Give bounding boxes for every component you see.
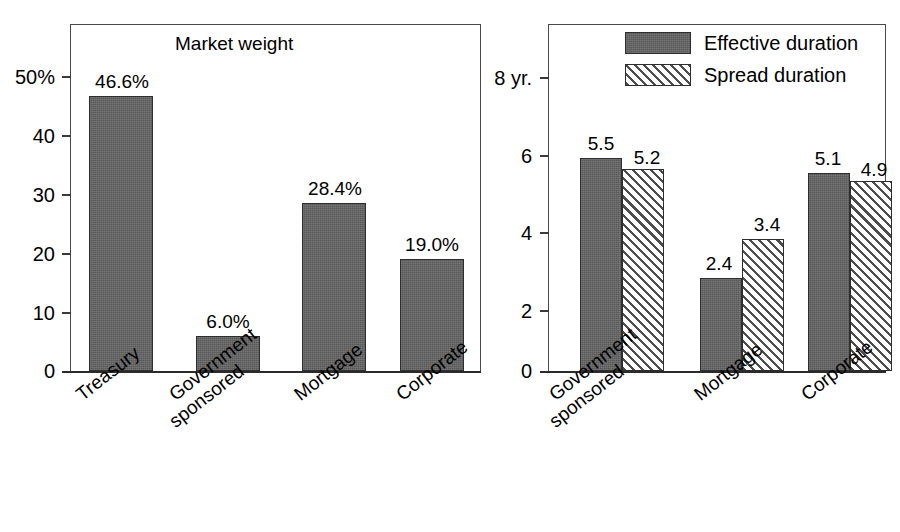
bar-value-right-corporate-spread: 4.9 bbox=[861, 160, 887, 179]
chart-panel-market-weight: 50% 40 30 20 10 0 Market weight 46.6% 6.… bbox=[0, 0, 460, 532]
bar-value-right-government-spread: 5.2 bbox=[634, 148, 660, 167]
figure-two-bar-charts: 50% 40 30 20 10 0 Market weight 46.6% 6.… bbox=[0, 0, 900, 532]
bars-layer-right bbox=[460, 0, 900, 532]
bar-right-corporate-effective[interactable] bbox=[808, 173, 850, 371]
bar-left-treasury[interactable] bbox=[89, 96, 153, 371]
bar-value-right-corporate-effective: 5.1 bbox=[815, 149, 841, 168]
chart-panel-duration: 8 yr. 6 4 2 0 Effective duration Spread … bbox=[460, 0, 900, 532]
bar-value-right-mortgage-effective: 2.4 bbox=[706, 254, 732, 273]
bar-value-right-mortgage-spread: 3.4 bbox=[754, 215, 780, 234]
bar-value-left-mortgage: 28.4% bbox=[308, 179, 362, 198]
bar-value-right-government-effective: 5.5 bbox=[588, 134, 614, 153]
bars-layer-left bbox=[0, 0, 460, 532]
bar-value-left-treasury: 46.6% bbox=[95, 72, 149, 91]
bar-value-left-corporate: 19.0% bbox=[405, 235, 459, 254]
